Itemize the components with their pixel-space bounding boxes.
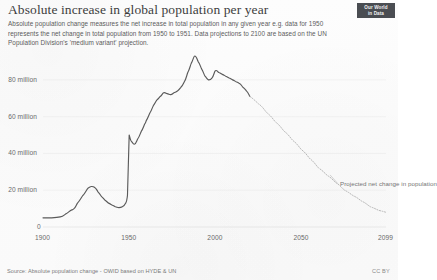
x-axis-tick-label: 2050 [294, 234, 309, 241]
x-axis-tick-label: 1900 [35, 234, 50, 241]
annotation-leader-line [330, 175, 338, 184]
line-chart-svg [0, 52, 398, 252]
y-axis-tick-label: 80 million [8, 76, 37, 83]
y-axis-tick-label: 20 million [8, 186, 37, 193]
projection-annotation-label: Projected net change in population [340, 180, 437, 187]
x-axis-tick-label: 2099 [378, 234, 393, 241]
projection-series-line [250, 96, 386, 212]
chart-title: Absolute increase in global population p… [8, 2, 268, 18]
y-axis-tick-label: 60 million [8, 113, 37, 120]
our-world-in-data-logo[interactable]: Our World in Data [357, 3, 395, 18]
y-axis-tick-label: 40 million [8, 149, 37, 156]
x-axis-tick-label: 1950 [121, 234, 136, 241]
license-label: CC BY [372, 268, 390, 274]
x-axis-tick-label: 2000 [207, 234, 222, 241]
chart-subtitle: Absolute population change measures the … [8, 19, 344, 48]
chart-plot-area: 020 million40 million60 million80 millio… [0, 52, 398, 252]
y-axis-tick-label: 0 [37, 223, 41, 230]
logo-line-2: in Data [357, 11, 395, 17]
historical-series-line [43, 56, 250, 218]
gridlines [43, 80, 386, 190]
source-note: Source: Absolute population change - OWI… [7, 268, 176, 274]
